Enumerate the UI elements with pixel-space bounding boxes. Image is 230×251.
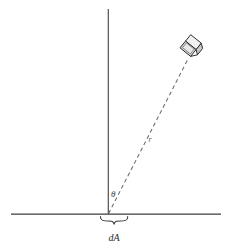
brace-path — [101, 217, 128, 225]
observer-box — [180, 35, 203, 57]
area-element-label: dA — [108, 232, 120, 243]
distance-label: r — [149, 135, 153, 144]
area-element-brace — [101, 217, 128, 225]
radiometry-diagram: θ r dA — [0, 0, 230, 251]
theta-label: θ — [111, 189, 116, 199]
diagram-canvas: θ r dA — [0, 0, 230, 251]
